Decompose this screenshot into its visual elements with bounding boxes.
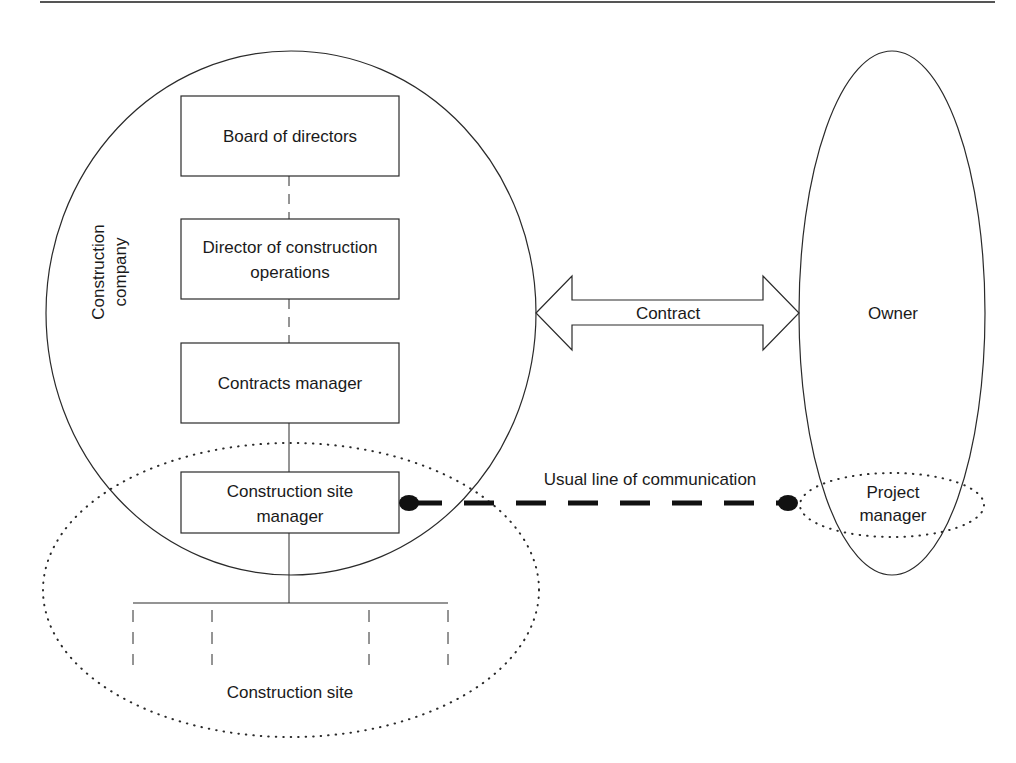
director-label-line1: Director of construction [203, 238, 378, 257]
project-manager-label-line1: Project [867, 483, 920, 502]
construction-site-manager-box: Construction site manager [181, 472, 399, 533]
construction-company-label: Construction company [89, 224, 130, 319]
site-manager-label-line2: manager [256, 507, 323, 526]
construction-organization-diagram: Board of directors Director of construct… [0, 0, 1016, 763]
contracts-manager-label: Contracts manager [218, 374, 363, 393]
communication-label: Usual line of communication [544, 470, 757, 489]
communication-endpoint-left-icon [399, 495, 419, 511]
svg-text:Construction: Construction [89, 224, 108, 319]
board-of-directors-box: Board of directors [181, 96, 399, 176]
communication-endpoint-right-icon [778, 495, 798, 511]
contract-label: Contract [636, 304, 701, 323]
svg-text:company: company [111, 237, 130, 306]
board-of-directors-label: Board of directors [223, 127, 357, 146]
project-manager-label-line2: manager [859, 506, 926, 525]
contracts-manager-box: Contracts manager [181, 343, 399, 423]
site-manager-label-line1: Construction site [227, 482, 354, 501]
construction-site-label: Construction site [227, 683, 354, 702]
director-of-construction-box: Director of construction operations [181, 219, 399, 299]
communication-line: Usual line of communication [399, 470, 798, 511]
owner-label: Owner [868, 304, 918, 323]
director-label-line2: operations [250, 263, 329, 282]
contract-arrow: Contract [536, 276, 799, 350]
